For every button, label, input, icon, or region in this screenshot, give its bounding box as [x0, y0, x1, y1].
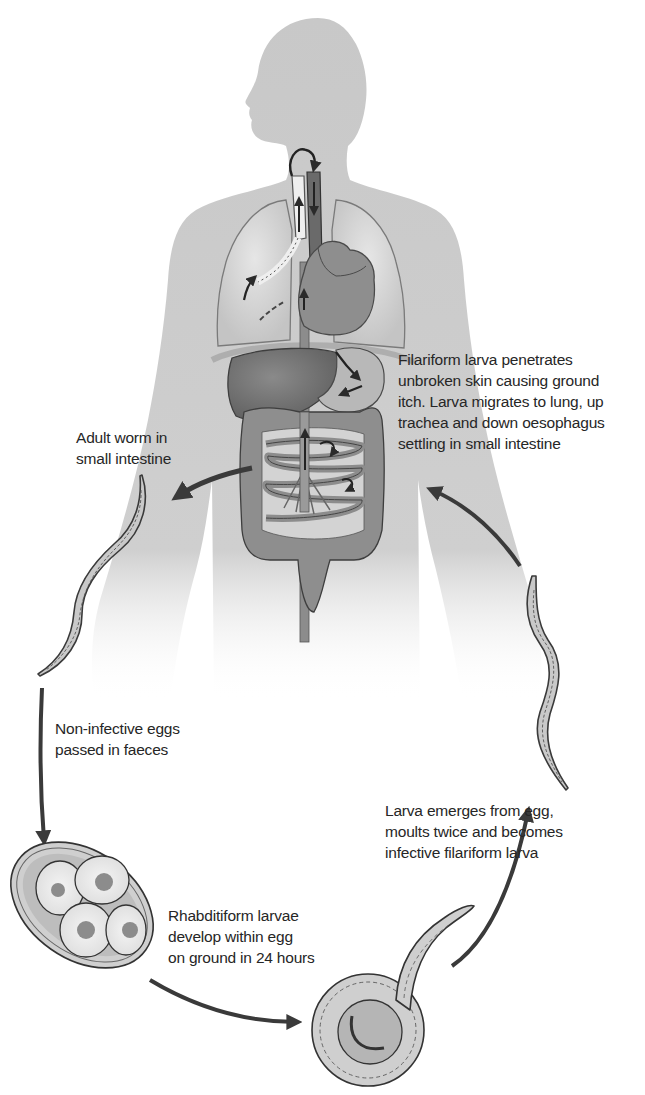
label-line: unbroken skin causing ground: [398, 370, 605, 391]
arrow-egg-to-larva: [150, 980, 296, 1022]
label-line: Larva emerges from egg,: [385, 800, 563, 821]
label-line: moults twice and becomes: [385, 821, 563, 842]
rhabditiform-larva-illustration: [312, 906, 474, 1087]
label-line: Adult worm in: [76, 427, 171, 448]
heart: [299, 241, 375, 335]
label-adult-worm: Adult worm in small intestine: [76, 427, 171, 469]
label-line: passed in faeces: [55, 739, 180, 760]
label-line: settling in small intestine: [398, 433, 605, 454]
label-larva-emerges: Larva emerges from egg, moults twice and…: [385, 800, 563, 863]
label-non-infective-eggs: Non-infective eggs passed in faeces: [55, 718, 180, 760]
hookworm-life-cycle-diagram: Filariform larva penetrates unbroken ski…: [0, 0, 645, 1095]
label-filariform-penetrates: Filariform larva penetrates unbroken ski…: [398, 349, 605, 454]
label-line: itch. Larva migrates to lung, up: [398, 391, 605, 412]
arrow-worm-to-egg: [41, 688, 44, 840]
diagram-canvas: [0, 0, 645, 1095]
label-line: on ground in 24 hours: [168, 947, 315, 968]
label-line: small intestine: [76, 448, 171, 469]
label-line: Filariform larva penetrates: [398, 349, 605, 370]
label-line: trachea and down oesophagus: [398, 412, 605, 433]
label-line: Rhabditiform larvae: [168, 905, 315, 926]
label-line: infective filariform larva: [385, 842, 563, 863]
label-line: Non-infective eggs: [55, 718, 180, 739]
label-line: develop within egg: [168, 926, 315, 947]
label-rhabditiform: Rhabditiform larvae develop within egg o…: [168, 905, 315, 968]
